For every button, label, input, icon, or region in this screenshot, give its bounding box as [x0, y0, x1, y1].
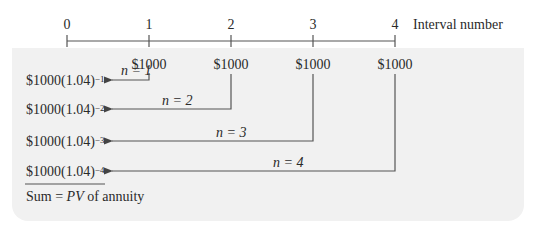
tick-label-4: 4	[392, 18, 399, 32]
payment-3: $1000	[296, 58, 331, 72]
arrow-n3	[112, 74, 313, 141]
term-1: $1000(1.04)−1	[26, 74, 104, 88]
term-4: $1000(1.04)−4	[26, 165, 104, 179]
n-label-4: n = 4	[273, 156, 303, 170]
axis-label: Interval number	[413, 18, 503, 32]
arrow-n4	[112, 74, 395, 171]
term-3: $1000(1.04)−3	[26, 135, 104, 149]
n-label-2: n = 2	[162, 94, 192, 108]
tick-label-0: 0	[64, 18, 71, 32]
sum-label: Sum = PV of annuity	[26, 190, 144, 204]
term-2: $1000(1.04)−2	[26, 103, 104, 117]
n-label-1: n = 1	[121, 64, 151, 78]
tick-label-1: 1	[146, 18, 153, 32]
n-label-3: n = 3	[216, 126, 246, 140]
tick-label-3: 3	[310, 18, 317, 32]
tick-label-2: 2	[228, 18, 235, 32]
payment-4: $1000	[378, 58, 413, 72]
payment-2: $1000	[214, 58, 249, 72]
